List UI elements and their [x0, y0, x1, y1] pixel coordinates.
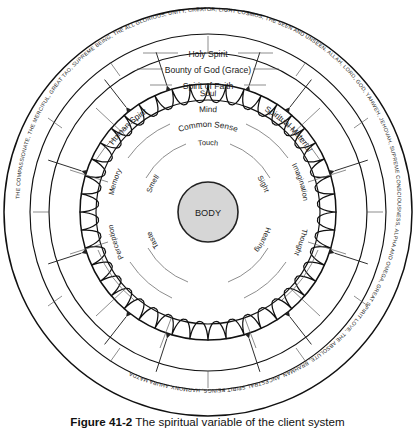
- figure-caption-text: The spiritual variable of the client sys…: [135, 415, 344, 428]
- label-bounty-of-god: Bounty of God (Grace): [165, 65, 252, 75]
- svg-text:Taste: Taste: [145, 230, 161, 250]
- label-touch: Touch: [197, 138, 218, 148]
- mind-ring-labels: Mind Common Sense: [177, 105, 239, 134]
- svg-text:Thought: Thought: [292, 228, 309, 257]
- label-mind: Mind: [199, 105, 218, 114]
- influence-arrow-line: [105, 317, 127, 345]
- figure-caption-label: Figure 41-2: [70, 415, 132, 428]
- svg-text:Perception: Perception: [106, 224, 126, 261]
- label-common-sense: Common Sense: [177, 120, 239, 134]
- svg-text:Mind: Mind: [199, 105, 218, 114]
- spirit-ring-labels: Holy Spirit Bounty of God (Grace) Spirit…: [137, 49, 279, 91]
- svg-text:Hearing: Hearing: [253, 226, 273, 254]
- influence-arrow-line: [290, 80, 312, 108]
- label-body: BODY: [195, 208, 221, 218]
- svg-text:Touch: Touch: [197, 138, 218, 148]
- label-taste: Taste: [145, 230, 161, 250]
- figure-container: THE COMPASSIONATE, THE MERCIFUL, GREAT T…: [0, 0, 415, 431]
- label-thought: Thought: [292, 228, 309, 257]
- influence-arrow-line: [105, 80, 127, 108]
- svg-text:Memory: Memory: [107, 167, 124, 196]
- figure-caption: Figure 41-2 The spiritual variable of th…: [0, 415, 415, 431]
- label-memory: Memory: [107, 167, 124, 196]
- influence-arrow-line: [335, 160, 368, 171]
- label-holy-spirit: Holy Spirit: [188, 49, 228, 59]
- spiritual-variable-diagram: THE COMPASSIONATE, THE MERCIFUL, GREAT T…: [0, 0, 415, 431]
- influence-arrow-line: [48, 160, 81, 171]
- label-soul: Soul: [200, 89, 217, 98]
- influence-arrow-line: [48, 253, 81, 264]
- svg-text:Common Sense: Common Sense: [177, 120, 239, 134]
- label-smell: Smell: [144, 173, 161, 194]
- svg-text:Imagination: Imagination: [290, 161, 310, 201]
- influence-arrow-line: [335, 253, 368, 264]
- label-imagination: Imagination: [290, 161, 310, 201]
- svg-text:Soul: Soul: [200, 89, 217, 98]
- label-perception: Perception: [106, 224, 126, 261]
- influence-arrow-line: [290, 317, 312, 345]
- svg-text:Smell: Smell: [144, 173, 161, 194]
- label-hearing: Hearing: [253, 226, 273, 254]
